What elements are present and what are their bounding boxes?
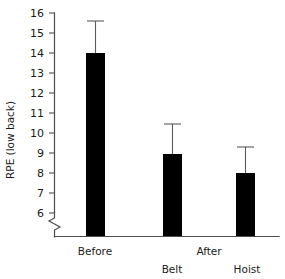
y-tick-label-11: 11 bbox=[30, 107, 44, 120]
y-axis-title: RPE (low back) bbox=[4, 101, 16, 179]
bar-before bbox=[86, 53, 105, 236]
y-tick-label-10: 10 bbox=[30, 127, 44, 140]
y-tick-label-6: 6 bbox=[37, 207, 44, 220]
x-label-before: Before bbox=[78, 245, 112, 257]
bar-belt bbox=[163, 154, 182, 236]
y-tick-label-13: 13 bbox=[30, 67, 44, 80]
x-label-hoist: Hoist bbox=[234, 263, 261, 275]
bar-chart-svg: 16 15 14 13 12 11 10 9 8 7 6 RPE (low ba… bbox=[0, 0, 285, 279]
y-tick-label-7: 7 bbox=[37, 187, 44, 200]
y-tick-label-12: 12 bbox=[30, 87, 44, 100]
y-tick-label-16: 16 bbox=[30, 7, 44, 20]
y-tick-label-15: 15 bbox=[30, 27, 44, 40]
y-tick-label-8: 8 bbox=[37, 167, 44, 180]
y-tick-label-9: 9 bbox=[37, 147, 44, 160]
x-label-belt: Belt bbox=[162, 263, 183, 275]
y-tick-label-14: 14 bbox=[30, 47, 44, 60]
bar-hoist bbox=[236, 173, 255, 236]
y-axis-break-icon bbox=[49, 212, 60, 237]
chart-figure: 16 15 14 13 12 11 10 9 8 7 6 RPE (low ba… bbox=[0, 0, 285, 279]
x-label-after: After bbox=[196, 245, 222, 257]
